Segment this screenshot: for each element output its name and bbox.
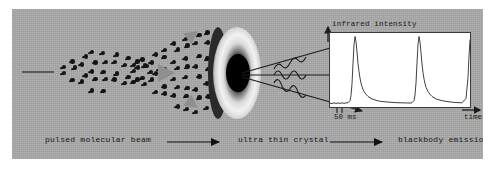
chart-plot-area xyxy=(329,32,471,108)
molecule-glyph xyxy=(113,52,119,58)
molecule-glyph xyxy=(78,62,84,68)
illustration-panel: infrared intensity xyxy=(12,9,483,159)
scene-area: infrared intensity xyxy=(12,9,483,127)
caption-row: pulsed molecular beam ultra thin crystal xyxy=(12,127,483,159)
molecule-glyph xyxy=(174,85,180,91)
molecule-glyph xyxy=(182,56,188,62)
molecule-glyph xyxy=(161,91,167,97)
molecule-glyph xyxy=(192,64,198,70)
molecule-glyph xyxy=(78,79,84,85)
molecule-glyph xyxy=(174,104,180,110)
molecule-glyph xyxy=(148,60,154,66)
molecule-glyph xyxy=(161,84,167,90)
molecule-glyph xyxy=(161,48,167,54)
molecule-glyph xyxy=(121,63,127,69)
caption-arrow-1-icon xyxy=(167,138,227,148)
molecule-glyph xyxy=(111,60,117,66)
emission-wave-lower xyxy=(274,80,306,98)
molecule-glyph xyxy=(192,87,198,93)
molecule-glyph xyxy=(100,89,106,95)
molecule-glyph xyxy=(88,50,94,56)
caption-arrow-2-icon xyxy=(330,138,390,148)
chart-trace xyxy=(330,33,470,107)
molecule-glyph xyxy=(92,77,98,83)
caption-stage-3: blackbody emission xyxy=(398,135,483,144)
molecule-glyph xyxy=(102,77,108,83)
molecule-glyph xyxy=(196,74,202,80)
molecule-glyph xyxy=(100,70,106,76)
molecule-glyph xyxy=(174,47,180,53)
molecule-glyph xyxy=(82,54,88,60)
molecule-glyph xyxy=(102,60,108,66)
infrared-intensity-series xyxy=(330,37,470,104)
beam-axis-line xyxy=(22,69,56,75)
molecule-glyph xyxy=(111,77,117,83)
molecule-glyph xyxy=(130,80,136,86)
chart-x-axis-label: time xyxy=(464,113,482,121)
molecule-glyph xyxy=(184,43,190,49)
molecule-glyph xyxy=(170,93,176,99)
infrared-intensity-chart: infrared intensity xyxy=(312,20,483,127)
molecule-glyph xyxy=(161,55,167,61)
molecule-glyph xyxy=(92,60,98,66)
beam-direction-arrowhead xyxy=(158,64,175,82)
caption-stage-1: pulsed molecular beam xyxy=(45,135,151,144)
molecule-glyph xyxy=(99,51,105,57)
figure-root: infrared intensity xyxy=(0,0,495,177)
molecule-glyph xyxy=(141,82,147,88)
molecule-glyph xyxy=(139,57,145,63)
molecule-glyph xyxy=(141,63,147,69)
molecule-glyph xyxy=(69,78,75,84)
molecule-glyph xyxy=(196,54,202,60)
molecule-glyph xyxy=(69,59,75,65)
molecule-glyph xyxy=(121,81,127,87)
molecule-glyph xyxy=(130,69,136,75)
molecule-glyph xyxy=(184,86,190,92)
molecule-glyph xyxy=(152,52,158,58)
chart-time-scale-label: 50 ms xyxy=(334,113,357,121)
molecule-glyph xyxy=(152,90,158,96)
molecule-glyph xyxy=(88,69,94,75)
molecule-glyph xyxy=(184,64,190,70)
molecule-glyph xyxy=(88,88,94,94)
caption-stage-2: ultra thin crystal xyxy=(238,135,329,144)
molecule-glyph xyxy=(71,65,77,71)
molecule-glyph xyxy=(60,71,66,77)
molecule-glyph xyxy=(182,75,188,81)
molecule-glyph xyxy=(148,77,154,83)
